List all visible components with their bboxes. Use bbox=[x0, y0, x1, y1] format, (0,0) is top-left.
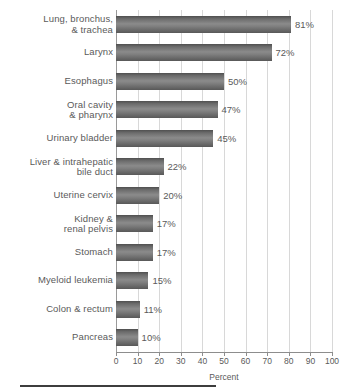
bar-value-label: 22% bbox=[168, 158, 187, 175]
bar-category-label-line1: Myeloid leukemia bbox=[38, 274, 113, 285]
bar-category-label-line1: Uterine cervix bbox=[54, 189, 113, 200]
bar bbox=[116, 301, 140, 318]
tick-label-50: 50 bbox=[212, 356, 236, 367]
bar bbox=[116, 329, 138, 346]
bar-category-label-line1: Oral cavity bbox=[67, 99, 113, 110]
bar-value-label: 17% bbox=[157, 215, 176, 232]
bar bbox=[116, 101, 218, 118]
bar-category-label: Pancreas bbox=[0, 332, 113, 343]
bar-category-label-line1: Urinary bladder bbox=[47, 132, 113, 143]
bar-value-label: 15% bbox=[152, 272, 171, 289]
bar-row: Liver & intrahepaticbile duct22% bbox=[0, 153, 352, 182]
bar-value-label: 10% bbox=[142, 329, 161, 346]
bar-category-label: Kidney &renal pelvis bbox=[0, 214, 113, 235]
bar-value-label: 20% bbox=[163, 187, 182, 204]
bar-category-label: Esophagus bbox=[0, 76, 113, 87]
bar-category-label-line2: renal pelvis bbox=[0, 224, 113, 235]
bar-value-label: 50% bbox=[228, 73, 247, 90]
tick-label-30: 30 bbox=[169, 356, 193, 367]
bar bbox=[116, 73, 224, 90]
bar-value-label: 72% bbox=[276, 44, 295, 61]
bar-row: Pancreas10% bbox=[0, 324, 352, 353]
bar-category-label: Stomach bbox=[0, 247, 113, 258]
tick-label-10: 10 bbox=[126, 356, 150, 367]
bar-category-label-line1: Colon & rectum bbox=[46, 303, 113, 314]
bar-value-label: 17% bbox=[157, 244, 176, 261]
bar-value-label: 45% bbox=[217, 130, 236, 147]
bar-category-label: Oral cavity& pharynx bbox=[0, 100, 113, 121]
tick-label-100: 100 bbox=[320, 356, 344, 367]
bar-category-label-line1: Esophagus bbox=[65, 75, 113, 86]
bar-category-label: Larynx bbox=[0, 47, 113, 58]
bar bbox=[116, 215, 153, 232]
bar bbox=[116, 158, 164, 175]
tick-label-40: 40 bbox=[190, 356, 214, 367]
bar bbox=[116, 272, 148, 289]
bar-category-label: Liver & intrahepaticbile duct bbox=[0, 157, 113, 178]
bar bbox=[116, 244, 153, 261]
bar-value-label: 81% bbox=[295, 16, 314, 33]
bar-category-label-line1: Kidney & bbox=[74, 213, 113, 224]
bar bbox=[116, 187, 159, 204]
bar-row: Esophagus50% bbox=[0, 67, 352, 96]
bar-category-label-line1: Larynx bbox=[84, 46, 113, 57]
bar-row: Kidney &renal pelvis17% bbox=[0, 210, 352, 239]
bar-category-label-line1: Stomach bbox=[75, 246, 113, 257]
bar-category-label: Colon & rectum bbox=[0, 304, 113, 315]
bar-row: Colon & rectum11% bbox=[0, 295, 352, 324]
bar-category-label: Myeloid leukemia bbox=[0, 275, 113, 286]
bar-value-label: 11% bbox=[144, 301, 162, 318]
bar-row: Stomach17% bbox=[0, 238, 352, 267]
bar-chart: Lung, bronchus,& trachea81%Larynx72%Esop… bbox=[0, 0, 352, 391]
bar-row: Lung, bronchus,& trachea81% bbox=[0, 10, 352, 39]
bar bbox=[116, 130, 213, 147]
bar bbox=[116, 16, 291, 33]
tick-label-60: 60 bbox=[234, 356, 258, 367]
bar-category-label-line2: & trachea bbox=[0, 25, 113, 36]
bar-row: Uterine cervix20% bbox=[0, 181, 352, 210]
bar-category-label-line1: Pancreas bbox=[72, 331, 113, 342]
bar-category-label-line1: Lung, bronchus, bbox=[43, 13, 113, 24]
bar-category-label: Urinary bladder bbox=[0, 133, 113, 144]
bar-category-label: Uterine cervix bbox=[0, 190, 113, 201]
bar-rows: Lung, bronchus,& trachea81%Larynx72%Esop… bbox=[0, 10, 352, 352]
footnote-divider bbox=[20, 385, 216, 387]
bar-category-label-line2: & pharynx bbox=[0, 110, 113, 121]
bar-row: Oral cavity& pharynx47% bbox=[0, 96, 352, 125]
bar-row: Myeloid leukemia15% bbox=[0, 267, 352, 296]
bar-category-label: Lung, bronchus,& trachea bbox=[0, 14, 113, 35]
tick-label-0: 0 bbox=[104, 356, 128, 367]
tick-label-80: 80 bbox=[277, 356, 301, 367]
bar bbox=[116, 44, 272, 61]
bar-category-label-line1: Liver & intrahepatic bbox=[30, 156, 113, 167]
tick-label-90: 90 bbox=[298, 356, 322, 367]
bar-row: Larynx72% bbox=[0, 39, 352, 68]
x-axis-title: Percent bbox=[116, 372, 332, 383]
bar-category-label-line2: bile duct bbox=[0, 167, 113, 178]
tick-label-70: 70 bbox=[255, 356, 279, 367]
bar-row: Urinary bladder45% bbox=[0, 124, 352, 153]
tick-label-20: 20 bbox=[147, 356, 171, 367]
bar-value-label: 47% bbox=[222, 101, 241, 118]
